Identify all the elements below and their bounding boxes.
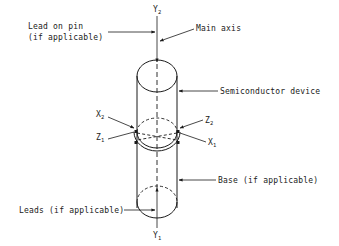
z2-label: Z2 — [205, 116, 214, 126]
x1-label: X1 — [208, 138, 217, 148]
semiconductor-device-label: Semiconductor device — [220, 87, 320, 96]
x2-label: X2 — [96, 110, 105, 120]
z2-arrow — [180, 120, 203, 128]
x2-arrow — [108, 117, 134, 128]
x1-line — [180, 133, 206, 142]
y1-label: Y1 — [153, 231, 162, 241]
lead-on-pin-label-2: (if applicable) — [28, 33, 103, 42]
z1-label: Z1 — [96, 133, 105, 143]
z1-line — [108, 132, 134, 139]
lead-on-pin-label-1: Lead on pin — [28, 22, 83, 31]
device-axes-diagram: Y2 Y1 Lead on pin (if applicable) Main a… — [0, 0, 339, 246]
leads-label: Leads (if applicable) — [19, 206, 124, 215]
main-axis-label: Main axis — [196, 24, 241, 33]
base-label: Base (if applicable) — [218, 176, 318, 185]
y2-label: Y2 — [153, 5, 162, 15]
main-axis-arrow — [160, 29, 194, 41]
